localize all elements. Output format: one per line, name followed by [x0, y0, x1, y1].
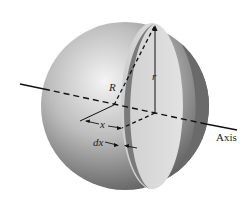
- thickness-label: dx: [93, 136, 104, 148]
- distance-label: x: [99, 118, 105, 130]
- small-radius-label: r: [152, 70, 157, 82]
- axis-line-right: [206, 124, 237, 130]
- big-radius-label: R: [108, 81, 116, 93]
- axis-label: Axis: [216, 131, 237, 143]
- diagram-canvas: R r x dx Axis: [0, 0, 250, 203]
- axis-line-left: [20, 84, 44, 89]
- sphere-slice-diagram: R r x dx Axis: [0, 0, 250, 203]
